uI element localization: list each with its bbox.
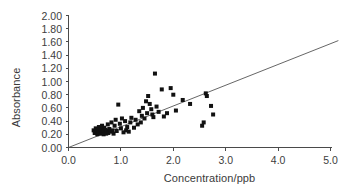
data-point: [118, 122, 122, 126]
data-point: [139, 120, 143, 124]
plot-area: [0, 0, 351, 195]
data-point: [202, 120, 206, 124]
data-point: [144, 99, 148, 103]
data-point: [145, 111, 149, 115]
data-point: [116, 103, 120, 107]
data-point: [129, 116, 133, 120]
data-point: [106, 122, 110, 126]
data-point: [115, 129, 119, 133]
data-point: [209, 104, 213, 108]
data-point: [127, 130, 131, 134]
data-point: [188, 102, 192, 106]
data-point: [153, 72, 157, 76]
data-point: [205, 94, 209, 98]
data-point: [211, 113, 215, 117]
data-point: [123, 119, 127, 123]
data-point: [174, 109, 178, 113]
data-point: [157, 110, 161, 114]
data-point: [114, 118, 118, 122]
data-point: [137, 109, 141, 113]
data-points-group: [92, 72, 215, 137]
data-point: [160, 87, 164, 91]
data-point: [155, 105, 159, 109]
data-point: [146, 94, 150, 98]
data-point: [171, 93, 175, 97]
data-point: [165, 111, 169, 115]
data-point: [113, 124, 117, 128]
data-point: [169, 86, 173, 90]
data-point: [132, 126, 136, 130]
data-point: [128, 120, 132, 124]
data-point: [148, 102, 152, 106]
data-point: [119, 126, 123, 130]
data-point: [181, 98, 185, 102]
data-point: [141, 106, 145, 110]
data-point: [149, 107, 153, 111]
data-point: [134, 118, 138, 122]
chart-figure: Absorbance Concentration/ppb 0.000.200.4…: [0, 0, 351, 195]
data-point: [125, 125, 129, 129]
data-point: [142, 116, 146, 120]
data-point: [151, 115, 155, 119]
